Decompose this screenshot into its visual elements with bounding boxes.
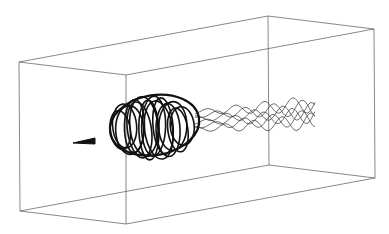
- vortex-loop: [108, 109, 133, 150]
- box-edge: [126, 178, 375, 224]
- vortex-core-bundle: [73, 88, 204, 163]
- box-edge: [19, 16, 268, 62]
- box-edge: [268, 16, 374, 29]
- box-edge: [20, 211, 126, 224]
- box-edge: [269, 165, 375, 178]
- box-edge: [20, 165, 269, 211]
- wake-streamline: [195, 111, 315, 128]
- box-edge: [126, 29, 374, 75]
- box-edge: [19, 62, 126, 75]
- wake-streamline: [195, 109, 315, 125]
- wake-streamlines: [195, 98, 315, 131]
- box-edge: [374, 29, 375, 178]
- bounding-box-wireframe: [19, 16, 375, 224]
- streamline-figure: [0, 0, 389, 234]
- box-edge: [19, 62, 20, 211]
- box-edge: [268, 16, 269, 165]
- vortex-envelope: [105, 88, 204, 163]
- vortex-nose: [73, 138, 95, 144]
